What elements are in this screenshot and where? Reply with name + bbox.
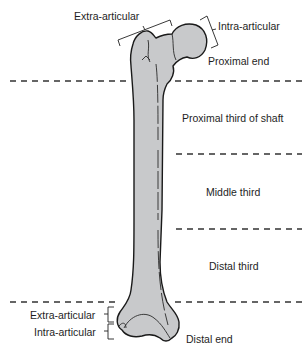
intra-articular-bracket-tick [212, 29, 216, 30]
extra-articular-bracket-distal [108, 307, 114, 322]
intra-articular-bracket-distal [108, 324, 114, 339]
distal-brackets [104, 307, 114, 339]
extra-articular-bracket-tick [143, 26, 145, 30]
label-distal-intra-articular: Intra-articular [34, 326, 96, 338]
label-distal-third: Distal third [209, 260, 259, 272]
label-middle-third: Middle third [206, 186, 260, 198]
label-distal-end: Distal end [186, 333, 233, 345]
femur-diagram [0, 0, 308, 356]
label-proximal-end: Proximal end [208, 55, 269, 67]
label-proximal-third: Proximal third of shaft [182, 112, 284, 124]
label-distal-extra-articular: Extra-articular [30, 309, 95, 321]
label-proximal-extra-articular: Extra-articular [74, 10, 139, 22]
label-proximal-intra-articular: Intra-articular [218, 20, 280, 32]
femur-bone [117, 24, 207, 341]
